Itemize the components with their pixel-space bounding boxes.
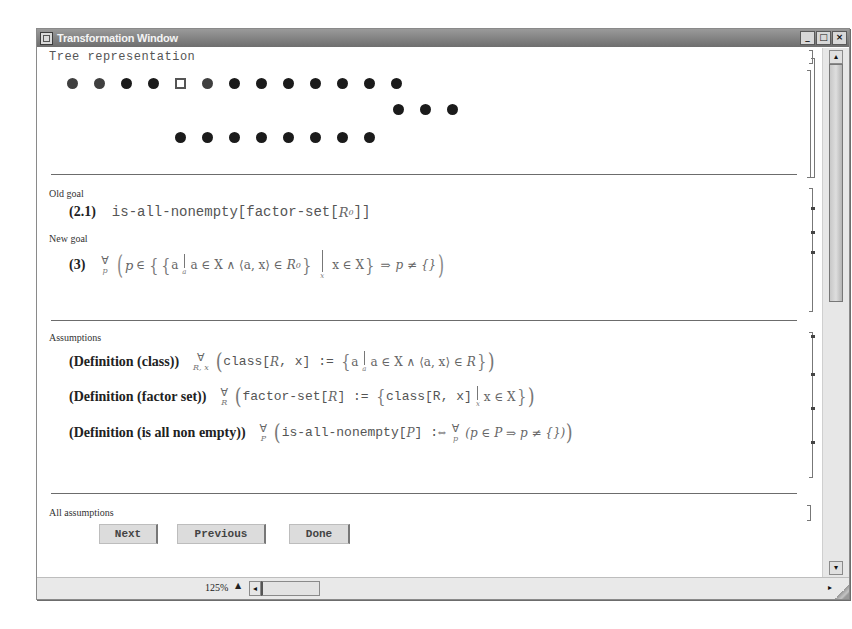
set-condition: a ∈ X ∧ ⟨a, x⟩ ∈: [190, 258, 282, 272]
element-of: ∈: [136, 258, 145, 272]
tree-node[interactable]: [121, 78, 132, 89]
tree-node[interactable]: [175, 132, 186, 143]
transformation-window: Transformation Window _ □ × Tree represe…: [36, 28, 850, 600]
next-button[interactable]: Next: [99, 524, 158, 544]
close-button[interactable]: ×: [832, 31, 847, 45]
scroll-left-icon[interactable]: ◂: [249, 581, 261, 596]
brace: (: [216, 349, 223, 374]
old-goal-formula: (2.1) is-all-nonempty[factor-set[ R0 ]]: [69, 204, 370, 220]
tree-node[interactable]: [393, 104, 404, 115]
tree-node[interactable]: [364, 132, 375, 143]
definition-assign: ] :=: [337, 389, 368, 404]
previous-button[interactable]: Previous: [177, 524, 266, 544]
status-bar: 125% ▲ ◂ ▸: [37, 577, 849, 599]
forall-quantifier: ∀R: [220, 387, 228, 407]
tree-node[interactable]: [364, 78, 375, 89]
definition-assign: , x] :=: [279, 354, 334, 369]
cell-bracket[interactable]: [807, 505, 811, 521]
forall-symbol: ∀: [101, 255, 109, 266]
var-p: P: [407, 426, 415, 440]
tree-node[interactable]: [256, 78, 267, 89]
tree-node[interactable]: [420, 104, 431, 115]
tree-node[interactable]: [148, 78, 159, 89]
var-r: R: [328, 390, 337, 404]
set-bar: x: [320, 250, 324, 280]
cell-bracket[interactable]: [807, 70, 811, 178]
bar-sub: a: [182, 269, 186, 276]
set-bar: x: [476, 386, 480, 408]
scroll-up-icon[interactable]: ▴: [829, 50, 843, 64]
cell-bracket[interactable]: [811, 58, 815, 178]
scroll-down-icon[interactable]: ▾: [829, 561, 843, 575]
assumption-name: (Definition (factor set)): [69, 389, 206, 405]
cell-bracket[interactable]: [809, 332, 813, 478]
tree-node[interactable]: [229, 132, 240, 143]
new-goal-formula: (3) ∀p ( p ∈ { { a a a ∈ X ∧ ⟨a, x⟩ ∈ R0…: [69, 250, 446, 280]
close-paren: ): [438, 250, 444, 280]
bar-sub: x: [320, 273, 324, 280]
zoom-menu-icon[interactable]: ▲: [235, 581, 241, 590]
section-divider: [51, 493, 797, 494]
tree-node[interactable]: [310, 78, 321, 89]
definition-lhs: class[: [223, 354, 270, 369]
tree-node-selected[interactable]: [175, 78, 186, 89]
brace: {: [161, 255, 170, 276]
inner-forall-quantifier: ∀p: [452, 423, 460, 443]
tree-node[interactable]: [67, 78, 78, 89]
window-title: Transformation Window: [57, 32, 178, 44]
title-bar[interactable]: Transformation Window _ □ ×: [37, 29, 849, 47]
assumption-name: (Definition (is all non empty)): [69, 425, 246, 441]
tree-node[interactable]: [447, 104, 458, 115]
horizontal-scroll-thumb[interactable]: [261, 581, 320, 596]
vertical-scroll-thumb[interactable]: [829, 64, 843, 302]
var-p: p: [125, 258, 133, 273]
old-goal-number: (2.1): [69, 204, 96, 220]
set-head: a: [351, 355, 358, 369]
set-bar: a: [362, 351, 366, 373]
tree-node[interactable]: [283, 78, 294, 89]
set-head: class[R, x]: [386, 389, 472, 404]
maximize-button[interactable]: □: [816, 31, 831, 45]
bar-sub: a: [362, 366, 366, 373]
definition-body: (p ∈ P ⇒ p ≠ {}): [465, 426, 565, 440]
set-body: x ∈ X: [484, 390, 516, 404]
forall-quantifier: ∀R, x: [193, 352, 209, 372]
done-button[interactable]: Done: [289, 524, 350, 544]
section-divider: [51, 174, 797, 175]
definition-equiv: ] :⇔: [415, 425, 446, 440]
tree-node[interactable]: [337, 78, 348, 89]
var-a: a: [171, 258, 178, 272]
old-goal-var: R: [339, 205, 349, 220]
assumptions-label: Assumptions: [49, 332, 101, 343]
tree-node[interactable]: [283, 132, 294, 143]
zoom-level[interactable]: 125%: [205, 582, 228, 593]
quantifier-variable: p: [103, 267, 108, 275]
tree-node[interactable]: [256, 132, 267, 143]
tree-node[interactable]: [202, 132, 213, 143]
set-bar: a: [182, 254, 186, 276]
tree-node[interactable]: [391, 78, 402, 89]
section-divider: [51, 320, 797, 321]
definition-lhs: is-all-nonempty[: [282, 425, 407, 440]
resize-grip-icon[interactable]: [835, 585, 849, 599]
tree-node[interactable]: [337, 132, 348, 143]
quantifier-variable: p: [453, 435, 458, 443]
forall-quantifier: ∀p: [101, 255, 109, 275]
tree-node[interactable]: [310, 132, 321, 143]
brace: }: [302, 255, 311, 276]
var-r: R: [467, 355, 476, 369]
scroll-right-icon[interactable]: ▸: [825, 581, 835, 594]
tree-node[interactable]: [229, 78, 240, 89]
tree-node[interactable]: [202, 78, 213, 89]
assumption-name: (Definition (class)): [69, 354, 179, 370]
notebook-content: Tree representation Old goal (2.1) is-al…: [37, 48, 821, 577]
minimize-button[interactable]: _: [800, 31, 815, 45]
tree-node[interactable]: [94, 78, 105, 89]
app-icon: [40, 32, 53, 45]
window-controls: _ □ ×: [800, 31, 847, 45]
assumption-is-all-nonempty: (Definition (is all non empty)) ∀P ( is-…: [69, 420, 574, 445]
cell-bracket[interactable]: [809, 188, 813, 312]
forall-symbol: ∀: [260, 423, 268, 434]
all-assumptions-label: All assumptions: [49, 507, 114, 518]
vertical-scrollbar[interactable]: ▴ ▾: [822, 48, 849, 577]
